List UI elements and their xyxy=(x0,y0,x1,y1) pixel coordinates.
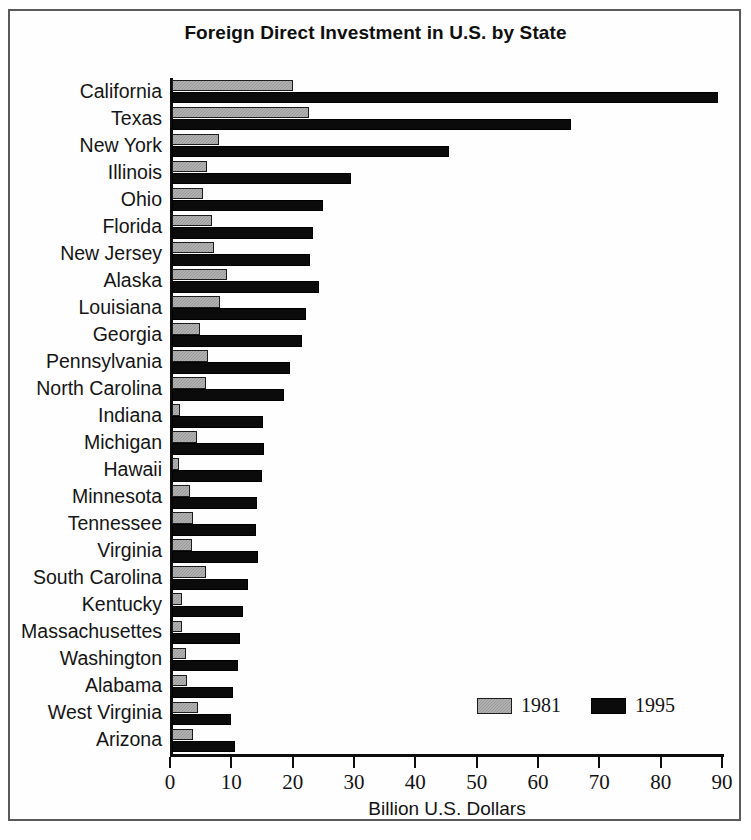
bar-1995-new-york[interactable] xyxy=(172,146,449,158)
bar-1995-michigan[interactable] xyxy=(172,443,264,455)
bar-1981-georgia[interactable] xyxy=(172,323,200,335)
bar-1981-west-virginia[interactable] xyxy=(172,702,198,714)
bar-1981-florida[interactable] xyxy=(172,215,212,227)
x-tick-40 xyxy=(414,757,416,768)
bar-1995-california[interactable] xyxy=(172,92,718,104)
bar-1981-tennessee[interactable] xyxy=(172,512,193,524)
bar-1995-virginia[interactable] xyxy=(172,551,258,563)
black-swatch-icon xyxy=(591,698,626,714)
bar-1995-alabama[interactable] xyxy=(172,687,233,699)
category-label-kentucky: Kentucky xyxy=(0,593,162,616)
x-tick-label-40: 40 xyxy=(389,770,441,795)
chart-legend: 1981 1995 xyxy=(477,694,675,717)
bar-1995-pennsylvania[interactable] xyxy=(172,362,290,374)
bar-1981-california[interactable] xyxy=(172,80,293,92)
bar-row: Arizona xyxy=(0,727,751,754)
bar-row: Hawaii xyxy=(0,457,751,484)
bar-row: New Jersey xyxy=(0,240,751,267)
bar-1995-arizona[interactable] xyxy=(172,741,235,753)
bar-1995-massachusettes[interactable] xyxy=(172,633,240,645)
bar-1981-alabama[interactable] xyxy=(172,675,187,687)
bar-row: California xyxy=(0,78,751,105)
bar-1981-alaska[interactable] xyxy=(172,269,227,281)
category-label-north-carolina: North Carolina xyxy=(0,377,162,400)
x-tick-label-90: 90 xyxy=(696,770,748,795)
category-label-massachusettes: Massachusettes xyxy=(0,620,162,643)
x-tick-90 xyxy=(721,757,723,768)
x-tick-20 xyxy=(292,757,294,768)
bar-1981-michigan[interactable] xyxy=(172,431,197,443)
bar-row: Pennsylvania xyxy=(0,348,751,375)
bar-row: Washington xyxy=(0,646,751,673)
category-label-louisiana: Louisiana xyxy=(0,296,162,319)
bar-row: Michigan xyxy=(0,430,751,457)
bar-1995-tennessee[interactable] xyxy=(172,524,256,536)
bar-row: Illinois xyxy=(0,159,751,186)
legend-label-1995: 1995 xyxy=(635,694,675,717)
bar-row: Kentucky xyxy=(0,592,751,619)
legend-item-1995[interactable]: 1995 xyxy=(591,694,675,717)
bar-1995-alaska[interactable] xyxy=(172,281,319,293)
bar-1995-indiana[interactable] xyxy=(172,416,263,428)
bar-1981-north-carolina[interactable] xyxy=(172,377,206,389)
bar-1995-minnesota[interactable] xyxy=(172,497,257,509)
bar-1981-new-york[interactable] xyxy=(172,134,219,146)
bar-1995-south-carolina[interactable] xyxy=(172,579,248,591)
bar-1995-louisiana[interactable] xyxy=(172,308,306,320)
category-label-michigan: Michigan xyxy=(0,431,162,454)
chart-title: Foreign Direct Investment in U.S. by Sta… xyxy=(0,22,751,44)
x-tick-label-30: 30 xyxy=(328,770,380,795)
bar-1981-hawaii[interactable] xyxy=(172,458,179,470)
bar-1981-south-carolina[interactable] xyxy=(172,566,206,578)
bar-1995-florida[interactable] xyxy=(172,227,313,239)
bar-1981-texas[interactable] xyxy=(172,107,309,119)
bar-1995-washington[interactable] xyxy=(172,660,238,672)
x-tick-label-20: 20 xyxy=(267,770,319,795)
gray-swatch-icon xyxy=(477,698,512,714)
category-label-minnesota: Minnesota xyxy=(0,485,162,508)
legend-label-1981: 1981 xyxy=(521,694,561,717)
bar-1981-louisiana[interactable] xyxy=(172,296,220,308)
bar-1995-georgia[interactable] xyxy=(172,335,302,347)
bar-1981-washington[interactable] xyxy=(172,648,186,660)
bar-1981-indiana[interactable] xyxy=(172,404,180,416)
bar-row: Alaska xyxy=(0,267,751,294)
category-label-tennessee: Tennessee xyxy=(0,512,162,535)
category-label-alabama: Alabama xyxy=(0,674,162,697)
category-label-texas: Texas xyxy=(0,107,162,130)
chart-page: Foreign Direct Investment in U.S. by Sta… xyxy=(0,0,751,840)
bar-1981-pennsylvania[interactable] xyxy=(172,350,208,362)
category-label-california: California xyxy=(0,80,162,103)
bar-1995-west-virginia[interactable] xyxy=(172,714,231,726)
bar-1995-illinois[interactable] xyxy=(172,173,351,185)
bar-1981-new-jersey[interactable] xyxy=(172,242,214,254)
bar-row: Ohio xyxy=(0,186,751,213)
x-tick-label-50: 50 xyxy=(451,770,503,795)
category-label-georgia: Georgia xyxy=(0,323,162,346)
bar-row: Massachusettes xyxy=(0,619,751,646)
x-tick-label-80: 80 xyxy=(635,770,687,795)
x-tick-label-60: 60 xyxy=(512,770,564,795)
category-label-new-york: New York xyxy=(0,134,162,157)
bar-1981-minnesota[interactable] xyxy=(172,485,190,497)
category-label-hawaii: Hawaii xyxy=(0,458,162,481)
bar-row: Georgia xyxy=(0,321,751,348)
x-tick-60 xyxy=(537,757,539,768)
bar-1995-north-carolina[interactable] xyxy=(172,389,284,401)
bar-row: Tennessee xyxy=(0,511,751,538)
category-label-virginia: Virginia xyxy=(0,539,162,562)
bar-1995-new-jersey[interactable] xyxy=(172,254,310,266)
x-tick-30 xyxy=(353,757,355,768)
bar-1981-virginia[interactable] xyxy=(172,539,192,551)
bar-1981-massachusettes[interactable] xyxy=(172,621,182,633)
bar-1995-kentucky[interactable] xyxy=(172,606,243,618)
bar-1995-texas[interactable] xyxy=(172,119,571,131)
legend-item-1981[interactable]: 1981 xyxy=(477,694,561,717)
bar-1981-arizona[interactable] xyxy=(172,729,193,741)
bar-1995-ohio[interactable] xyxy=(172,200,323,212)
bar-1981-kentucky[interactable] xyxy=(172,593,182,605)
bar-1981-illinois[interactable] xyxy=(172,161,207,173)
category-label-indiana: Indiana xyxy=(0,404,162,427)
bar-1995-hawaii[interactable] xyxy=(172,470,262,482)
bar-1981-ohio[interactable] xyxy=(172,188,203,200)
